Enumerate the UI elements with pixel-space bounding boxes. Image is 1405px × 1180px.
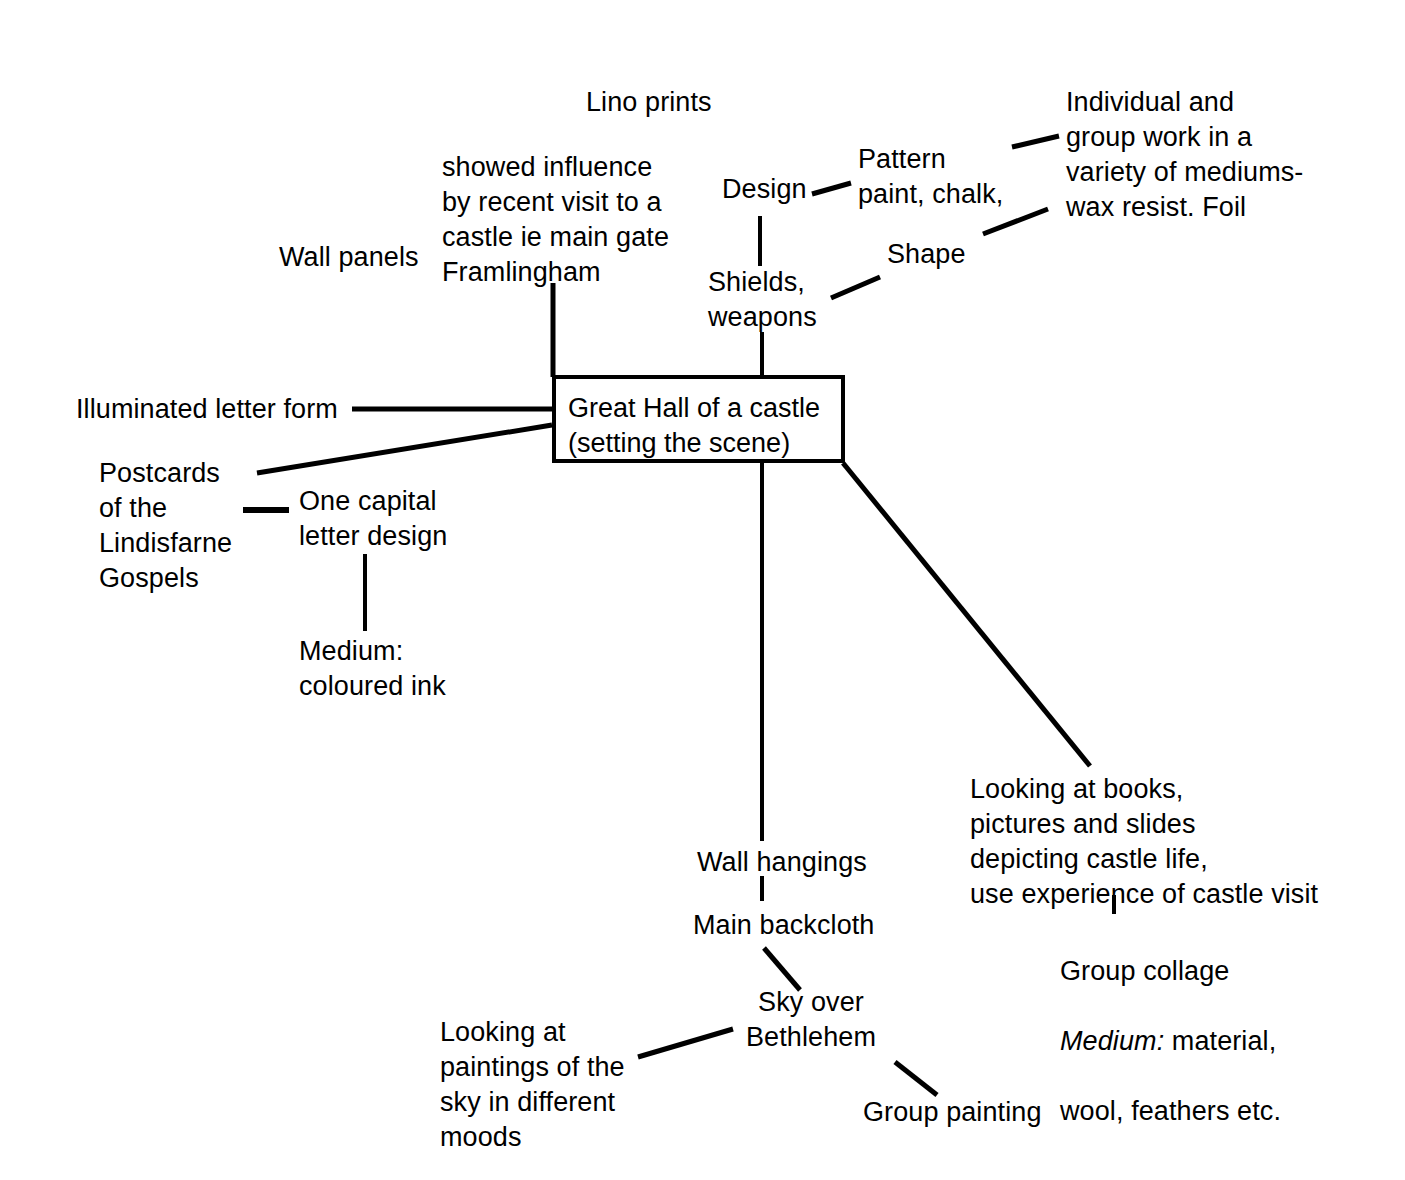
connector-box-to-looking-books	[843, 463, 1090, 766]
node-looking-at-paintings: Looking at paintings of the sky in diffe…	[440, 1015, 625, 1155]
connector-shape-to-individual	[983, 209, 1048, 234]
node-lino-prints: Lino prints	[586, 85, 712, 120]
node-main-backcloth: Main backcloth	[693, 908, 875, 943]
node-shields-weapons: Shields, weapons	[708, 265, 817, 335]
connector-shields-to-shape	[831, 277, 880, 298]
connector-backcloth-to-sky	[764, 948, 800, 990]
center-node-great-hall: Great Hall of a castle (setting the scen…	[552, 375, 845, 463]
connector-sky-to-group-painting	[895, 1062, 937, 1095]
node-group-painting: Group painting	[863, 1095, 1042, 1130]
node-showed-influence: showed influence by recent visit to a ca…	[442, 150, 669, 290]
connector-postcards-to-box	[257, 425, 552, 473]
group-collage-title: Group collage	[1060, 954, 1281, 989]
group-collage-materials: wool, feathers etc.	[1060, 1094, 1281, 1129]
node-one-capital-letter-design: One capital letter design	[299, 484, 447, 554]
node-looking-at-books: Looking at books, pictures and slides de…	[970, 772, 1318, 912]
center-node-label: Great Hall of a castle (setting the scen…	[568, 391, 820, 461]
node-design: Design	[722, 172, 807, 207]
connector-pattern-to-individual	[1012, 136, 1059, 147]
node-group-collage: Group collage Medium: material, wool, fe…	[1060, 919, 1281, 1164]
connector-design-to-pattern	[812, 183, 851, 194]
node-medium-coloured-ink: Medium: coloured ink	[299, 634, 446, 704]
node-postcards-lindisfarne: Postcards of the Lindisfarne Gospels	[99, 456, 232, 596]
connector-paintings-to-sky	[638, 1029, 733, 1057]
group-collage-medium-label: Medium:	[1060, 1026, 1164, 1056]
node-illuminated-letter-form: Illuminated letter form	[76, 392, 338, 427]
node-shape: Shape	[887, 237, 966, 272]
node-pattern-paint-chalk: Pattern paint, chalk,	[858, 142, 1003, 212]
group-collage-medium: Medium: material,	[1060, 1024, 1281, 1059]
node-individual-group-work: Individual and group work in a variety o…	[1066, 85, 1303, 225]
group-collage-medium-rest: material,	[1164, 1026, 1276, 1056]
node-sky-over-bethlehem: Sky over Bethlehem	[745, 985, 877, 1055]
diagram-canvas: Lino prints showed influence by recent v…	[0, 0, 1405, 1180]
node-wall-hangings: Wall hangings	[697, 845, 867, 880]
node-wall-panels: Wall panels	[279, 240, 419, 275]
